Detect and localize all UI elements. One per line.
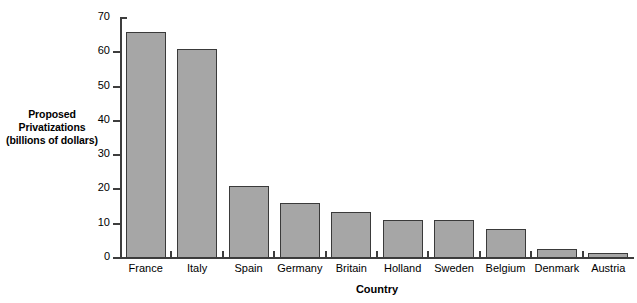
y-axis-tick [113, 86, 121, 88]
bar-sweden [434, 220, 474, 258]
bar-belgium [486, 229, 526, 258]
y-axis-tick-label: 40 [82, 113, 110, 125]
x-axis-tick [582, 251, 584, 258]
y-axis-tick-label: 50 [82, 79, 110, 91]
bar-germany [280, 203, 320, 258]
y-axis-tick-label: 0 [82, 250, 110, 262]
y-axis-tick [113, 257, 121, 259]
y-axis-tick-label: 30 [82, 147, 110, 159]
y-axis-tick [113, 51, 121, 53]
x-axis-tick [427, 251, 429, 258]
x-axis-title: Country [120, 283, 634, 295]
x-axis-tick [170, 251, 172, 258]
x-axis-tick [376, 251, 378, 258]
y-axis-tick-label: 60 [82, 44, 110, 56]
y-axis-tick-label: 10 [82, 216, 110, 228]
y-axis-tick-label: 70 [82, 10, 110, 22]
x-axis-label-holland: Holland [377, 262, 428, 274]
bar-denmark [537, 249, 577, 258]
x-axis-label-spain: Spain [223, 262, 274, 274]
y-axis-tick [113, 188, 121, 190]
x-axis-tick [530, 251, 532, 258]
x-axis-label-denmark: Denmark [531, 262, 582, 274]
x-axis-tick [325, 251, 327, 258]
x-axis-label-germany: Germany [274, 262, 325, 274]
bar-france [126, 32, 166, 258]
y-axis-tick [113, 120, 121, 122]
bar-chart: Proposed Privatizations (billions of dol… [0, 0, 637, 303]
x-axis-tick [273, 251, 275, 258]
x-axis-label-britain: Britain [326, 262, 377, 274]
y-axis-tick-label: 20 [82, 181, 110, 193]
y-axis-title-line-3: (billions of dollars) [0, 134, 104, 147]
x-axis-tick [479, 251, 481, 258]
x-axis-label-belgium: Belgium [480, 262, 531, 274]
y-axis-tick [113, 223, 121, 225]
x-axis-label-austria: Austria [583, 262, 634, 274]
y-axis-top-cap-tick [120, 17, 127, 19]
bar-holland [383, 220, 423, 258]
y-axis-tick [113, 154, 121, 156]
x-axis-label-sweden: Sweden [428, 262, 479, 274]
bar-britain [331, 212, 371, 258]
bar-italy [177, 49, 217, 258]
x-axis-tick [222, 251, 224, 258]
bar-austria [588, 253, 628, 258]
x-axis-label-france: France [120, 262, 171, 274]
x-axis-label-italy: Italy [171, 262, 222, 274]
bar-spain [229, 186, 269, 258]
